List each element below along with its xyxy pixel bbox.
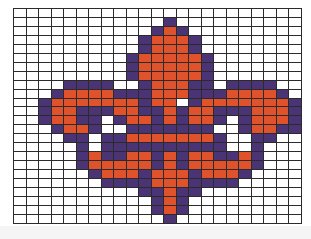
empty-cell: [189, 18, 202, 27]
empty-cell: [277, 197, 290, 206]
empty-cell: [64, 170, 77, 179]
orange-cell: [114, 170, 127, 179]
empty-cell: [289, 215, 302, 224]
orange-cell: [177, 170, 190, 179]
empty-cell: [89, 179, 102, 188]
orange-cell: [177, 45, 190, 54]
empty-cell: [14, 27, 27, 36]
orange-cell: [102, 161, 115, 170]
empty-cell: [14, 81, 27, 90]
purple-cell: [289, 107, 302, 116]
purple-cell: [114, 143, 127, 152]
orange-cell: [127, 134, 140, 143]
purple-cell: [214, 179, 227, 188]
empty-cell: [89, 134, 102, 143]
orange-cell: [264, 107, 277, 116]
purple-cell: [189, 99, 202, 108]
empty-cell: [14, 188, 27, 197]
empty-cell: [264, 18, 277, 27]
empty-cell: [14, 170, 27, 179]
purple-cell: [77, 116, 90, 125]
empty-cell: [189, 9, 202, 18]
empty-cell: [127, 197, 140, 206]
orange-cell: [164, 116, 177, 125]
empty-cell: [214, 45, 227, 54]
empty-cell: [102, 63, 115, 72]
orange-cell: [102, 170, 115, 179]
empty-cell: [77, 45, 90, 54]
purple-cell: [239, 125, 252, 134]
empty-cell: [252, 27, 265, 36]
empty-cell: [89, 206, 102, 215]
purple-cell: [152, 116, 165, 125]
orange-cell: [227, 90, 240, 99]
empty-cell: [77, 170, 90, 179]
purple-cell: [289, 99, 302, 108]
orange-cell: [64, 125, 77, 134]
empty-cell: [52, 18, 65, 27]
empty-cell: [27, 215, 40, 224]
empty-cell: [202, 197, 215, 206]
orange-cell: [64, 99, 77, 108]
empty-cell: [77, 215, 90, 224]
orange-cell: [277, 99, 290, 108]
purple-cell: [77, 107, 90, 116]
orange-cell: [252, 99, 265, 108]
purple-cell: [152, 161, 165, 170]
orange-cell: [164, 206, 177, 215]
empty-cell: [39, 134, 52, 143]
purple-cell: [177, 143, 190, 152]
empty-cell: [239, 27, 252, 36]
orange-cell: [89, 161, 102, 170]
purple-cell: [139, 143, 152, 152]
orange-cell: [189, 107, 202, 116]
empty-cell: [114, 63, 127, 72]
empty-cell: [227, 125, 240, 134]
purple-cell: [252, 81, 265, 90]
purple-cell: [189, 170, 202, 179]
empty-cell: [289, 90, 302, 99]
empty-cell: [39, 215, 52, 224]
purple-cell: [127, 63, 140, 72]
empty-cell: [139, 9, 152, 18]
orange-cell: [239, 152, 252, 161]
empty-cell: [202, 27, 215, 36]
empty-cell: [64, 36, 77, 45]
empty-cell: [27, 107, 40, 116]
empty-cell: [14, 206, 27, 215]
empty-cell: [114, 36, 127, 45]
empty-cell: [27, 125, 40, 134]
empty-cell: [239, 45, 252, 54]
empty-cell: [102, 72, 115, 81]
empty-cell: [89, 54, 102, 63]
orange-cell: [152, 134, 165, 143]
empty-cell: [127, 18, 140, 27]
orange-cell: [127, 152, 140, 161]
empty-cell: [14, 107, 27, 116]
empty-cell: [189, 197, 202, 206]
empty-cell: [27, 9, 40, 18]
empty-cell: [264, 36, 277, 45]
purple-cell: [164, 143, 177, 152]
empty-cell: [214, 36, 227, 45]
purple-cell: [252, 143, 265, 152]
empty-cell: [277, 45, 290, 54]
purple-cell: [239, 81, 252, 90]
purple-cell: [189, 45, 202, 54]
purple-cell: [127, 90, 140, 99]
empty-cell: [27, 188, 40, 197]
orange-cell: [89, 99, 102, 108]
empty-cell: [114, 188, 127, 197]
purple-cell: [127, 143, 140, 152]
purple-cell: [77, 152, 90, 161]
empty-cell: [289, 206, 302, 215]
empty-cell: [264, 179, 277, 188]
purple-cell: [202, 179, 215, 188]
empty-cell: [89, 215, 102, 224]
orange-cell: [164, 197, 177, 206]
empty-cell: [277, 9, 290, 18]
empty-cell: [289, 197, 302, 206]
empty-cell: [64, 143, 77, 152]
orange-cell: [152, 72, 165, 81]
orange-cell: [189, 152, 202, 161]
